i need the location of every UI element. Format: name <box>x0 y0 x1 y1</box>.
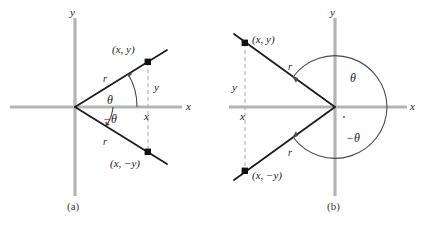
panel-a-angle-negtheta-label: −θ <box>103 113 117 125</box>
panel-b-angle-theta-arrowhead <box>293 77 298 82</box>
panel-a-point-upper-marker <box>145 59 151 65</box>
panel-b-angle-negtheta-label: −θ <box>346 132 360 144</box>
panel-a-y-axis-label: y <box>70 7 75 18</box>
panel-a-angle-theta-arc <box>128 74 137 107</box>
panel-a-point-lower-label: (x, −y) <box>110 158 140 169</box>
panel-a-caption: (a) <box>67 201 79 212</box>
panel-a-x-axis-label: x <box>186 101 191 112</box>
panel-b-origin-dot <box>343 116 345 118</box>
panel-a-radius-lower-label: r <box>103 137 107 147</box>
panel-b-segment-y-label: y <box>232 82 237 93</box>
panel-b-x-axis-label: x <box>410 101 415 112</box>
panel-b-point-lower-label: (x, −y) <box>252 170 282 181</box>
panel-b-angle-theta-arc <box>293 56 387 107</box>
panel-b: y x (x, y) (x, −y) r r θ −θ y x (b) <box>211 0 422 225</box>
figure-container: y x (x, y) (x, −y) r r θ −θ y x (a) <box>0 0 422 225</box>
panel-b-ray-lower <box>234 107 335 180</box>
panel-b-caption: (b) <box>327 201 340 212</box>
panel-a-segment-y-label: y <box>154 82 159 93</box>
panel-a-angle-theta-label: θ <box>107 94 113 106</box>
panel-a-point-lower-marker <box>145 149 151 155</box>
panel-a-ray-upper <box>75 50 167 107</box>
panel-b-angle-negtheta-arc <box>293 107 387 158</box>
panel-b-angle-negtheta-arrowhead <box>293 132 298 137</box>
panel-b-ray-upper <box>234 34 335 107</box>
panel-a-radius-upper-label: r <box>103 74 107 84</box>
panel-b-point-lower-marker <box>242 168 248 174</box>
panel-b-y-axis-label: y <box>330 7 335 18</box>
panel-a: y x (x, y) (x, −y) r r θ −θ y x (a) <box>0 0 211 225</box>
panel-b-point-upper-label: (x, y) <box>252 34 275 45</box>
panel-b-radius-upper-label: r <box>288 62 292 72</box>
panel-a-segment-x-label: x <box>144 111 149 122</box>
panel-b-angle-theta-label: θ <box>350 72 356 84</box>
panel-b-radius-lower-label: r <box>288 148 292 158</box>
panel-a-ray-lower <box>75 107 167 164</box>
panel-b-segment-x-label: x <box>240 111 245 122</box>
panel-a-angle-theta-arrowhead <box>128 74 132 77</box>
panel-b-point-upper-marker <box>242 40 248 46</box>
panel-a-point-upper-label: (x, y) <box>112 44 135 55</box>
